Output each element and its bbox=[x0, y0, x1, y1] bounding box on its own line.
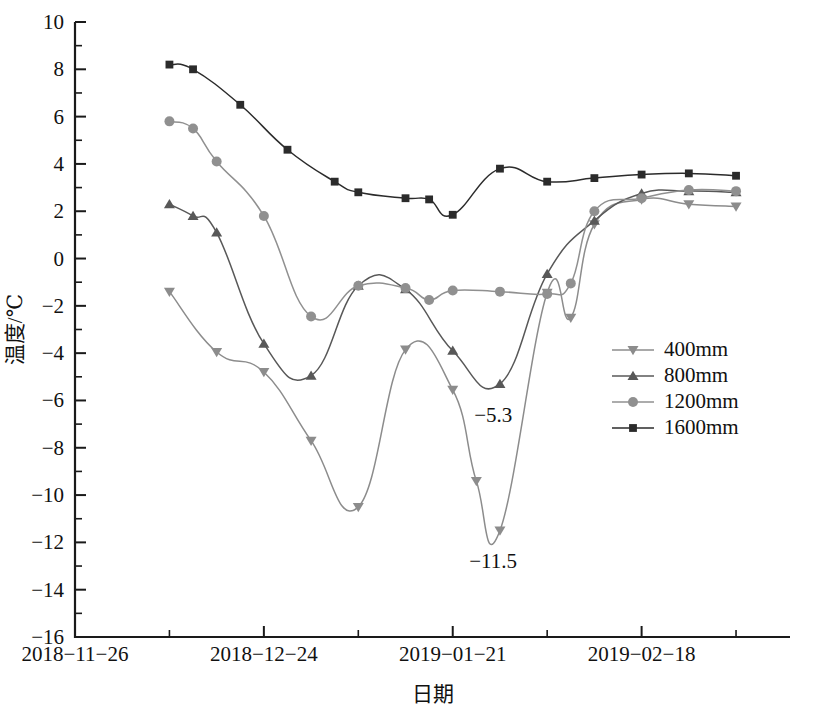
y-tick-label: 2 bbox=[54, 199, 65, 223]
x-tick-label: 2018−11−26 bbox=[22, 642, 129, 666]
data-point bbox=[685, 169, 693, 177]
data-point bbox=[495, 287, 505, 297]
annotation-label: −5.3 bbox=[474, 403, 512, 427]
legend-label: 1200mm bbox=[664, 389, 739, 413]
data-point bbox=[589, 206, 599, 216]
annotation-label: −11.5 bbox=[469, 549, 517, 573]
data-point bbox=[258, 338, 269, 347]
y-tick-label: 0 bbox=[54, 247, 65, 271]
data-point bbox=[331, 178, 339, 186]
y-axis-title: 温度/℃ bbox=[3, 294, 27, 365]
chart-legend[interactable]: 400mm800mm1200mm1600mm bbox=[612, 337, 739, 439]
data-point bbox=[212, 157, 222, 167]
data-point bbox=[542, 289, 552, 299]
data-point bbox=[164, 116, 174, 126]
y-tick-label: −2 bbox=[42, 294, 64, 318]
data-point bbox=[731, 186, 741, 196]
legend-label: 400mm bbox=[664, 337, 728, 361]
data-point bbox=[542, 269, 553, 278]
x-tick-label: 2019−02−18 bbox=[588, 642, 696, 666]
series-line bbox=[169, 64, 736, 216]
data-point bbox=[449, 211, 457, 219]
data-point bbox=[425, 195, 433, 203]
data-point bbox=[400, 346, 411, 355]
data-point bbox=[494, 527, 505, 536]
data-point bbox=[638, 171, 646, 179]
y-tick-label: 4 bbox=[54, 152, 65, 176]
data-point bbox=[732, 172, 740, 180]
chart-container: 1086420−2−4−6−8−10−12−14−162018−11−26201… bbox=[0, 0, 820, 708]
data-point bbox=[401, 283, 411, 293]
data-point bbox=[354, 188, 362, 196]
data-point bbox=[566, 278, 576, 288]
y-tick-label: −10 bbox=[31, 483, 64, 507]
y-tick-label: −4 bbox=[42, 341, 65, 365]
data-point bbox=[166, 61, 174, 69]
data-point bbox=[471, 477, 482, 486]
data-point bbox=[211, 227, 222, 236]
y-tick-label: 10 bbox=[43, 10, 64, 34]
x-tick-label: 2019−01−21 bbox=[399, 642, 507, 666]
data-point bbox=[496, 165, 504, 173]
legend-marker bbox=[629, 424, 637, 432]
legend-label: 1600mm bbox=[664, 415, 739, 439]
axis-frame bbox=[75, 22, 790, 637]
legend-item-800mm[interactable]: 800mm bbox=[612, 363, 728, 387]
data-point bbox=[164, 288, 175, 297]
data-point bbox=[637, 193, 647, 203]
data-point bbox=[188, 211, 199, 220]
data-point bbox=[259, 211, 269, 221]
y-tick-label: −14 bbox=[31, 578, 64, 602]
y-tick-label: 8 bbox=[54, 57, 65, 81]
data-series bbox=[164, 61, 742, 545]
data-point bbox=[447, 386, 458, 395]
data-point bbox=[353, 503, 364, 512]
line-chart: 1086420−2−4−6−8−10−12−14−162018−11−26201… bbox=[0, 0, 820, 708]
y-tick-label: −6 bbox=[42, 388, 64, 412]
x-tick-label: 2018−12−24 bbox=[210, 642, 318, 666]
data-point bbox=[284, 146, 292, 154]
legend-item-1200mm[interactable]: 1200mm bbox=[612, 389, 739, 413]
x-axis-title: 日期 bbox=[412, 682, 454, 706]
y-tick-label: −12 bbox=[31, 530, 64, 554]
data-point bbox=[448, 285, 458, 295]
data-point bbox=[306, 311, 316, 321]
data-point bbox=[306, 437, 317, 446]
legend-label: 800mm bbox=[664, 363, 728, 387]
y-tick-label: −8 bbox=[42, 436, 64, 460]
series-1200mm bbox=[164, 116, 741, 321]
data-point bbox=[164, 199, 175, 208]
data-point bbox=[188, 123, 198, 133]
data-point bbox=[424, 295, 434, 305]
y-tick-label: 6 bbox=[54, 105, 65, 129]
data-point bbox=[236, 101, 244, 109]
series-line bbox=[169, 198, 736, 545]
legend-item-400mm[interactable]: 400mm bbox=[612, 337, 728, 361]
legend-item-1600mm[interactable]: 1600mm bbox=[612, 415, 739, 439]
data-point bbox=[543, 178, 551, 186]
data-point bbox=[590, 174, 598, 182]
data-point bbox=[402, 194, 410, 202]
data-point bbox=[353, 281, 363, 291]
data-point bbox=[731, 203, 742, 212]
data-point bbox=[189, 65, 197, 73]
data-point bbox=[684, 185, 694, 195]
series-400mm bbox=[164, 195, 742, 544]
legend-marker bbox=[628, 397, 638, 407]
